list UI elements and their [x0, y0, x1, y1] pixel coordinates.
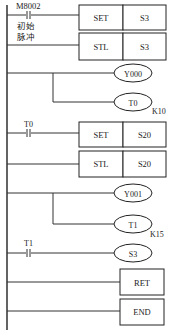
instruction-set-s20: SET S20 [79, 122, 166, 147]
coil-label: T0 [129, 99, 138, 108]
rung-6: STL S20 [7, 151, 166, 177]
instruction-operand: S3 [140, 13, 149, 23]
coil-y001-icon: Y001 [114, 184, 152, 202]
instruction-end: END [120, 299, 164, 325]
contact-label-m8002: M8002 [16, 1, 41, 11]
coil-label: T1 [129, 221, 138, 230]
contact-label-t0: T0 [24, 120, 33, 129]
instruction-op: END [133, 307, 150, 317]
instruction-operand: S3 [140, 42, 149, 52]
coil-label: Y001 [124, 190, 142, 199]
rung-10: RET [7, 269, 164, 295]
instruction-stl-s3: STL S3 [79, 33, 166, 60]
contact-t1-icon [27, 249, 30, 257]
instruction-op: STL [93, 42, 108, 52]
timer-coil-t1-icon: T1 [114, 215, 152, 233]
instruction-ret: RET [120, 269, 164, 295]
rung-5: T0 SET S20 [7, 120, 166, 147]
contact-t0-icon [27, 129, 30, 137]
instruction-op: SET [93, 13, 109, 23]
rung-11: END [7, 299, 164, 325]
rung-7: Y001 [7, 184, 152, 202]
ladder-diagram: M8002 初始 脉冲 SET S3 STL S3 Y000 [0, 0, 171, 336]
coil-label: S3 [129, 250, 137, 259]
instruction-stl-s20: STL S20 [79, 151, 166, 177]
instruction-operand: S20 [138, 130, 151, 140]
timer-coil-t0-icon: T0 [114, 93, 152, 111]
instruction-op: RET [134, 278, 151, 288]
note-initial-pulse-2: 脉冲 [17, 32, 35, 42]
instruction-set-s3: SET S3 [79, 5, 166, 30]
coil-s3-icon: S3 [114, 244, 152, 262]
coil-label: Y000 [124, 70, 142, 79]
contact-m8002-icon [27, 11, 30, 19]
rung-9: T1 S3 [7, 239, 152, 262]
timer-preset-k15: K15 [150, 230, 164, 239]
rung-4: T0 K10 [53, 73, 166, 116]
rung-3: Y000 [7, 64, 152, 82]
note-initial-pulse-1: 初始 [17, 21, 35, 31]
timer-preset-k10: K10 [152, 107, 166, 116]
contact-label-t1: T1 [24, 239, 33, 248]
instruction-operand: S20 [138, 159, 151, 169]
rung-8: T1 K15 [53, 193, 164, 239]
instruction-op: STL [93, 159, 108, 169]
instruction-op: SET [93, 130, 109, 140]
coil-y000-icon: Y000 [114, 64, 152, 82]
